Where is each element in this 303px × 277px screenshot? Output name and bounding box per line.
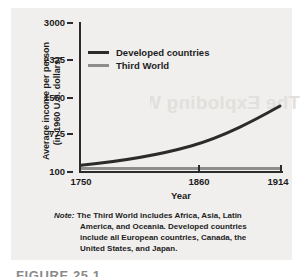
legend-label-third-world: Third World — [116, 60, 169, 71]
figure-container: The Exploding World 3000 2325 1550 775 1… — [0, 0, 303, 277]
x-axis-title: Year — [79, 190, 283, 201]
y-axis-title: Average income per person (in 1960 U.S. … — [41, 26, 62, 176]
x-tick-1914 — [280, 165, 282, 172]
x-tick-label-1750: 1750 — [70, 176, 91, 187]
figure-note-text: The Third World includes Africa, Asia, L… — [77, 211, 247, 253]
y-axis-title-line2: (in 1960 U.S. dollars) — [52, 57, 62, 146]
figure-note: Note: The Third World includes Africa, A… — [54, 210, 264, 254]
chart-plot-area: 3000 2325 1550 775 100 1750 1860 19 — [79, 22, 283, 173]
x-tick-label-1914: 1914 — [267, 176, 288, 187]
x-tick-1750 — [79, 165, 81, 172]
chart-legend: Developed countries Third World — [88, 46, 209, 72]
figure-note-label: Note: — [54, 211, 74, 220]
legend-swatch-developed-countries — [88, 51, 109, 54]
y-axis-title-line1: Average income per person — [41, 42, 51, 160]
figure-caption-cropped: FIGURE 25.1 — [16, 268, 101, 277]
figure-note-body: Note: The Third World includes Africa, A… — [54, 210, 264, 254]
legend-label-developed-countries: Developed countries — [116, 47, 209, 58]
legend-item-third-world: Third World — [88, 59, 209, 72]
x-tick-label-1860: 1860 — [188, 176, 209, 187]
legend-item-developed-countries: Developed countries — [88, 46, 209, 59]
legend-swatch-third-world — [88, 64, 109, 67]
series-developed-countries — [79, 22, 283, 173]
x-tick-1860 — [198, 165, 200, 172]
